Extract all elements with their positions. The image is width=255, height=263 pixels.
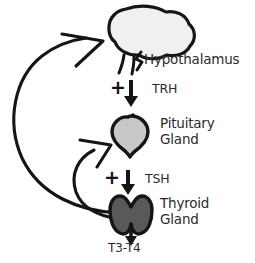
hypothalamus-stalk-left xyxy=(119,55,124,73)
t3t4-label: T3-T4 xyxy=(108,242,141,255)
tsh-plus-sign: + xyxy=(104,168,120,187)
hypothalamus-stalk-right xyxy=(132,57,134,74)
tsh-down-arrow-icon xyxy=(121,170,135,195)
pituitary-label-line1: Pituitary xyxy=(160,115,215,131)
pituitary-label: PituitaryGland xyxy=(160,116,215,147)
trh-label: TRH xyxy=(152,82,177,95)
pituitary-label-line2: Gland xyxy=(160,131,199,147)
thyroid-label-line2: Gland xyxy=(160,211,199,227)
trh-down-arrow-icon xyxy=(124,80,138,107)
feedback-curve-long xyxy=(14,38,118,213)
diagram-canvas xyxy=(0,0,255,263)
thyroid-label: ThyroidGland xyxy=(160,196,209,227)
pituitary-shape xyxy=(112,115,148,157)
trh-plus-sign: + xyxy=(110,78,126,97)
hpt-axis-diagram: Hypothalamus PituitaryGland ThyroidGland… xyxy=(0,0,255,263)
thyroid-label-line1: Thyroid xyxy=(160,195,209,211)
hypothalamus-label: Hypothalamus xyxy=(144,52,239,68)
tsh-arrow-head xyxy=(121,184,135,195)
feedback-arrow-thyroid-to-hypothalamus xyxy=(14,34,118,213)
trh-arrow-head xyxy=(124,96,138,107)
feedback-arrowhead-pituitary xyxy=(80,140,111,167)
pituitary-body xyxy=(112,116,148,157)
tsh-label: TSH xyxy=(145,172,170,185)
feedback-arrowhead-hypothalamus xyxy=(62,34,103,66)
